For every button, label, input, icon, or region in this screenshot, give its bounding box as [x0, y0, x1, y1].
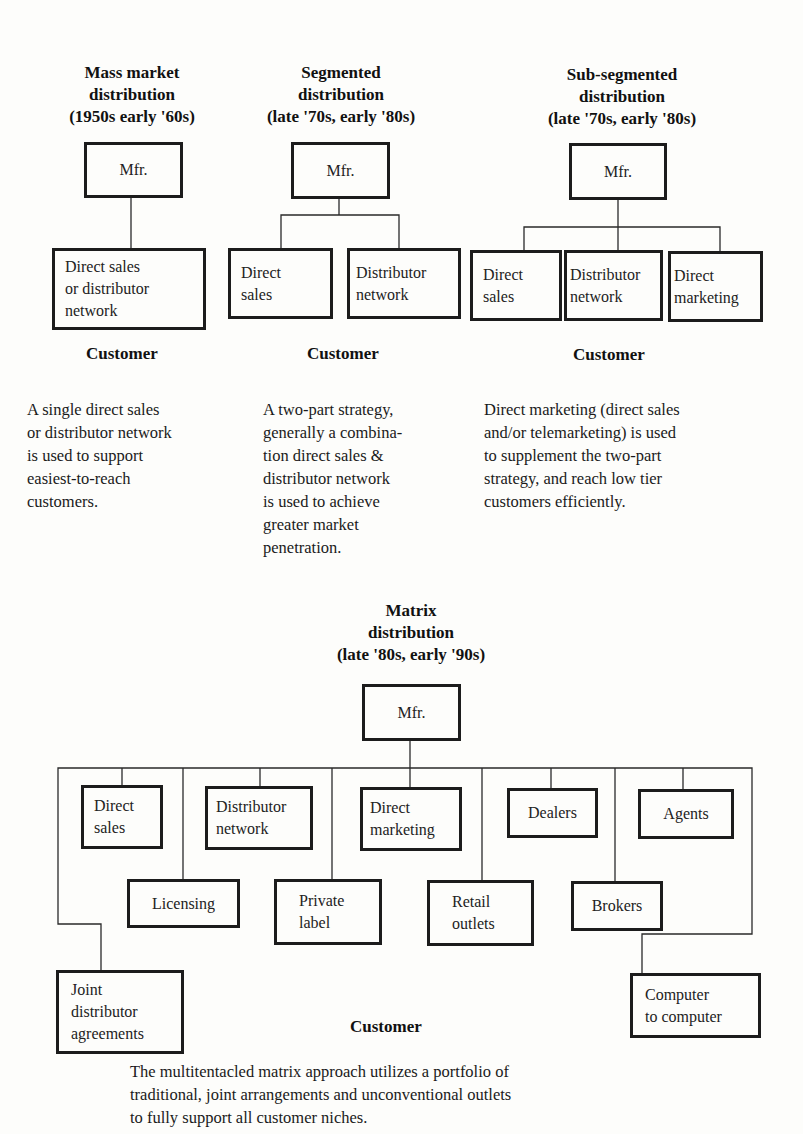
title-line: Matrix	[306, 600, 516, 622]
box-label: Direct marketing	[674, 265, 739, 309]
channel-box-licensing: Licensing	[127, 879, 240, 928]
channel-box-direct-marketing: Direct marketing	[360, 787, 462, 851]
channel-box-distributor-network: Distributor network	[564, 250, 663, 321]
mfr-box: Mfr.	[362, 684, 461, 741]
channel-box-direct-sales: Direct sales	[470, 250, 562, 321]
panel-description: A single direct sales or distributor net…	[27, 398, 172, 513]
channel-box-direct-sales: Direct sales	[81, 785, 163, 849]
box-label: Distributor network	[216, 796, 286, 840]
title-line: (late '70s, early '80s)	[236, 106, 446, 128]
box-label: Retail outlets	[452, 891, 495, 935]
box-label: Joint distributor agreements	[71, 979, 144, 1045]
title-line: distribution	[522, 86, 722, 108]
box-label: Distributor network	[570, 264, 640, 308]
box-label: Agents	[663, 803, 708, 825]
box-label: Mfr.	[327, 160, 355, 182]
matrix-description: The multitentacled matrix approach utili…	[130, 1060, 511, 1129]
panel-title-matrix: Matrix distribution (late '80s, early '9…	[306, 600, 516, 666]
panel-title-mass-market: Mass market distribution (1950s early '6…	[52, 62, 212, 128]
channel-box-joint-distributor-agreements: Joint distributor agreements	[56, 970, 184, 1054]
mfr-box: Mfr.	[569, 143, 667, 200]
channel-box-brokers: Brokers	[571, 881, 663, 931]
box-label: Mfr.	[604, 161, 632, 183]
box-label: Direct sales	[241, 262, 281, 306]
channel-box-computer-to-computer: Computer to computer	[630, 973, 761, 1038]
box-label: Dealers	[528, 802, 577, 824]
channel-box-direct-or-distributor: Direct sales or distributor network	[52, 248, 206, 330]
channel-box-direct-marketing: Direct marketing	[668, 251, 763, 322]
channel-box-retail-outlets: Retail outlets	[427, 880, 534, 946]
channel-box-dealers: Dealers	[507, 788, 598, 838]
mfr-box: Mfr.	[291, 142, 390, 199]
box-label: Direct sales	[94, 795, 134, 839]
box-label: Direct marketing	[370, 797, 435, 841]
customer-label: Customer	[86, 344, 158, 364]
box-label: Direct sales or distributor network	[65, 256, 149, 322]
channel-box-distributor-network: Distributor network	[205, 786, 313, 850]
title-line: (1950s early '60s)	[52, 106, 212, 128]
customer-label: Customer	[307, 344, 379, 364]
title-line: (late '80s, early '90s)	[306, 644, 516, 666]
box-label: Licensing	[152, 893, 215, 915]
box-label: Brokers	[592, 895, 643, 917]
panel-description: Direct marketing (direct sales and/or te…	[484, 398, 680, 513]
box-label: Distributor network	[356, 262, 426, 306]
channel-box-direct-sales: Direct sales	[228, 248, 333, 319]
panel-title-segmented: Segmented distribution (late '70s, early…	[236, 62, 446, 128]
panel-title-sub-segmented: Sub-segmented distribution (late '70s, e…	[522, 64, 722, 130]
mfr-box: Mfr.	[84, 142, 183, 198]
title-line: distribution	[306, 622, 516, 644]
box-label: Mfr.	[398, 702, 426, 724]
box-label: Private label	[299, 890, 344, 934]
box-label: Direct sales	[483, 264, 523, 308]
channel-box-distributor-network: Distributor network	[347, 248, 461, 319]
title-line: (late '70s, early '80s)	[522, 108, 722, 130]
panel-description: A two-part strategy, generally a combina…	[263, 398, 402, 559]
channel-box-agents: Agents	[638, 789, 734, 839]
title-line: Segmented	[236, 62, 446, 84]
title-line: distribution	[52, 84, 212, 106]
title-line: distribution	[236, 84, 446, 106]
box-label: Computer to computer	[645, 984, 722, 1028]
channel-box-private-label: Private label	[274, 879, 382, 945]
title-line: Mass market	[52, 62, 212, 84]
box-label: Mfr.	[120, 159, 148, 181]
customer-label: Customer	[573, 345, 645, 365]
title-line: Sub-segmented	[522, 64, 722, 86]
customer-label: Customer	[350, 1017, 422, 1037]
